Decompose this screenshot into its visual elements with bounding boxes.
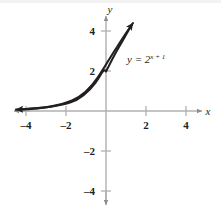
x-tick-label: –4 [20, 119, 33, 131]
y-tick-label: –2 [83, 145, 96, 157]
exponential-curve [22, 25, 132, 110]
y-tick-label: –4 [83, 185, 96, 197]
y-tick-label: 2 [90, 65, 96, 77]
x-tick-label: 4 [183, 119, 189, 131]
x-tick-label: 2 [143, 119, 149, 131]
y-tick-label: 4 [90, 25, 96, 37]
equation-base: y = 2 [126, 53, 151, 65]
x-axis-label: x [205, 105, 211, 117]
equation-exponent: x + 1 [149, 53, 165, 61]
curve-left-arrow [16, 109, 32, 110]
y-axis-label: y [107, 3, 113, 15]
coordinate-plane: –4 –2 2 4 4 2 –2 –4 x y y = 2x + 1 [0, 0, 221, 217]
exponential-curve-stroke [22, 23, 133, 109]
x-tick-label: –2 [60, 119, 73, 131]
graph-figure: –4 –2 2 4 4 2 –2 –4 x y y = 2x + 1 [0, 0, 221, 217]
function-equation-label: y = 2x + 1 [126, 53, 165, 65]
